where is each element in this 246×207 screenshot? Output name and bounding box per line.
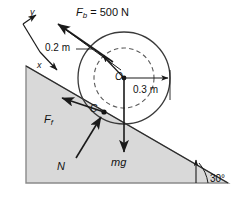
normal-force-label: N xyxy=(57,161,65,172)
weight-label: mg xyxy=(111,157,126,168)
inner-radius-label: 0.2 m xyxy=(45,43,70,53)
figure-canvas: Fb = 500 N 0.2 m 0.3 m O C Ff N mg 30° x… xyxy=(0,0,246,207)
axis-y-label: y xyxy=(30,8,35,17)
axis-y-line xyxy=(23,24,40,52)
friction-force-symbol: F xyxy=(44,113,51,125)
applied-force-cord-line xyxy=(66,30,121,70)
axis-x-arrow xyxy=(40,52,57,70)
friction-force-label: Ff xyxy=(44,114,53,127)
center-point-label: O xyxy=(115,72,123,82)
applied-force-subscript: b xyxy=(83,11,87,20)
applied-force-symbol: F xyxy=(76,6,83,18)
axis-x-label: x xyxy=(37,61,42,70)
incline-angle-label: 30° xyxy=(210,174,225,184)
applied-force-label: Fb = 500 N xyxy=(76,7,129,20)
outer-radius-label: 0.3 m xyxy=(133,85,158,95)
applied-force-value: = 500 N xyxy=(90,6,129,18)
contact-point-label: C xyxy=(90,104,97,114)
friction-force-subscript: f xyxy=(51,118,53,127)
